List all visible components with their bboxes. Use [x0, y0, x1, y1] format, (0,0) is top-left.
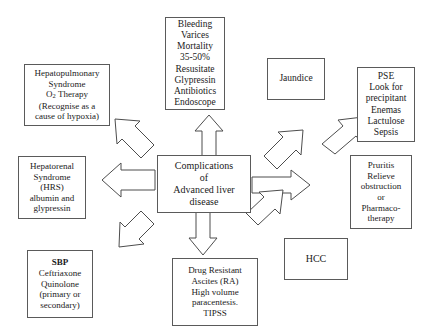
arrow-to-hepatorenal-icon: [102, 163, 155, 197]
drug-resistant-ascites-box[interactable]: Drug Resistant Ascites (RA) High volume …: [172, 258, 258, 326]
complications-center-box[interactable]: Complications of Advanced liver disease: [157, 155, 251, 213]
pruritis-box[interactable]: Pruritis Relieve obstruction or Pharmaco…: [350, 155, 412, 229]
jaundice-box[interactable]: Jaundice: [267, 58, 325, 100]
bleeding-varices-box[interactable]: Bleeding Varices Mortality 35-50% Resusi…: [165, 17, 225, 110]
pruritis-line-3: or: [377, 192, 385, 203]
sbp-line-4: secondary): [40, 300, 79, 311]
bleeding-line-2: Mortality: [177, 41, 213, 52]
hepatorenal-line-1: Syndrome: [34, 172, 71, 183]
arrow-to-jaundice-icon: [264, 130, 303, 169]
pse-box[interactable]: PSE Look for precipitant Enemas Lactulos…: [357, 67, 415, 142]
pruritis-line-1: Relieve: [367, 171, 395, 182]
sbp-line-2: Quinolone: [41, 279, 79, 290]
hepatopulmonary-line-0: Hepatopulmonary: [35, 68, 100, 79]
pruritis-line-0: Pruritis: [368, 160, 395, 171]
pruritis-line-5: therapy: [368, 213, 395, 224]
pruritis-line-4: Pharmaco-: [362, 203, 401, 214]
sbp-line-0: SBP: [52, 257, 69, 268]
ascites-line-4: TIPSS: [203, 308, 227, 319]
bleeding-line-5: Glypressin: [174, 75, 215, 86]
hepatorenal-line-3: albumin and: [30, 193, 75, 204]
pse-line-2: precipitant: [366, 93, 407, 104]
center-line-3: disease: [190, 196, 219, 208]
center-line-0: Complications: [175, 160, 233, 172]
center-line-1: of: [200, 172, 208, 184]
hepatorenal-line-4: glypressin: [34, 203, 71, 214]
hepatopulmonary-line-3: (Recognise as a: [39, 101, 95, 112]
pse-line-0: PSE: [378, 71, 394, 82]
hepatorenal-line-2: (HRS): [40, 182, 64, 193]
pse-line-1: Look for: [369, 82, 403, 93]
bleeding-line-0: Bleeding: [178, 19, 212, 30]
bleeding-line-7: Endoscope: [174, 97, 216, 108]
hepatopulmonary-syndrome-box[interactable]: Hepatopulmonary Syndrome O2 Therapy (Rec…: [24, 64, 110, 126]
ascites-line-1: Ascites (RA): [191, 276, 238, 287]
sbp-box[interactable]: SBP Ceftriaxone Quinolone (primary or se…: [27, 250, 93, 318]
arrow-to-pruritis-icon: [252, 170, 310, 200]
bleeding-line-6: Antibiotics: [174, 86, 216, 97]
pse-line-4: Lactulose: [368, 116, 405, 127]
pse-line-3: Enemas: [371, 105, 401, 116]
pruritis-line-2: obstruction: [361, 181, 402, 192]
hepatorenal-syndrome-box[interactable]: Hepatorenal Syndrome (HRS) albumin and g…: [18, 156, 86, 219]
diagram-canvas: Complications of Advanced liver disease …: [0, 0, 430, 336]
arrow-to-bleeding-icon: [195, 115, 223, 158]
sbp-line-1: Ceftriaxone: [39, 268, 81, 279]
hcc-box[interactable]: HCC: [284, 238, 348, 280]
hepatopulmonary-line-4: cause of hypoxia): [35, 111, 99, 122]
ascites-line-2: High volume: [191, 287, 238, 298]
center-line-2: Advanced liver: [173, 184, 234, 196]
arrow-to-ascites-icon: [189, 210, 217, 255]
hepatorenal-line-0: Hepatorenal: [30, 161, 74, 172]
arrow-to-hepatopulmonary-icon: [115, 119, 154, 158]
ascites-line-0: Drug Resistant: [188, 265, 242, 276]
jaundice-line-0: Jaundice: [279, 73, 312, 84]
ascites-line-3: paracentesis.: [192, 297, 238, 308]
bleeding-line-4: Resusitate: [175, 64, 214, 75]
arrow-to-sbp-icon: [119, 211, 154, 247]
hepatopulmonary-line-1: Syndrome: [49, 79, 86, 90]
bleeding-line-1: Varices: [181, 30, 209, 41]
hcc-line-0: HCC: [306, 253, 327, 265]
sbp-line-3: (primary or: [39, 289, 80, 300]
pse-line-5: Sepsis: [374, 127, 398, 138]
bleeding-line-3: 35-50%: [180, 52, 210, 63]
hepatopulmonary-line-2: O2 Therapy: [46, 89, 88, 100]
